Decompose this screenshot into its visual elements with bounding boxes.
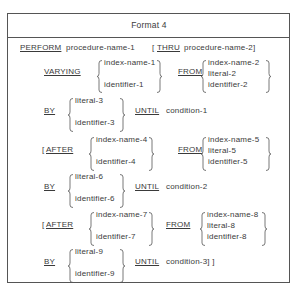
right-brace (149, 212, 154, 246)
format-title: Format 4 (0, 20, 298, 30)
choice-item: literal-9 (75, 247, 103, 257)
choice-item: identifier-6 (75, 194, 115, 204)
choice-item: identifier-7 (96, 232, 136, 242)
choice-item: identifier-1 (104, 80, 144, 90)
from-keyword: FROM (166, 220, 190, 230)
optional-open-bracket: [ (42, 220, 44, 230)
left-brace (89, 137, 94, 171)
choice-item: index-name-7 (96, 210, 147, 220)
left-brace (68, 249, 73, 283)
optional-open-bracket: [ (42, 145, 44, 155)
choice-item: identifier-8 (207, 232, 247, 242)
left-brace (68, 174, 73, 208)
choice-item: identifier-2 (208, 80, 248, 90)
choice-item: index-name-8 (207, 210, 258, 220)
right-brace (266, 60, 271, 93)
thru-keyword: THRU (157, 43, 180, 53)
right-brace (120, 249, 125, 283)
choice-item: identifier-3 (75, 118, 115, 128)
by-keyword: BY (44, 106, 55, 116)
varying-keyword: VARYING (44, 67, 81, 77)
choice-item: index-name-2 (208, 58, 259, 68)
choice-item: identifier-9 (75, 269, 115, 279)
choice-item: identifier-5 (208, 157, 248, 167)
right-brace (120, 174, 125, 208)
choice-item: index-name-5 (208, 135, 259, 145)
choice-item: literal-8 (207, 221, 235, 231)
right-brace (149, 137, 154, 171)
from-keyword: FROM (178, 145, 202, 155)
left-brace (201, 137, 206, 171)
by-keyword: BY (44, 257, 55, 267)
right-brace (262, 212, 267, 246)
left-brace (89, 212, 94, 246)
left-brace (68, 98, 73, 132)
left-brace (97, 60, 102, 93)
by-keyword: BY (44, 182, 55, 192)
until-keyword: UNTIL (135, 106, 159, 116)
choice-item: identifier-4 (96, 157, 136, 167)
choice-item: literal-6 (75, 172, 103, 182)
right-brace (120, 98, 125, 132)
after-keyword: AFTER (46, 220, 73, 230)
condition: condition-2 (166, 182, 207, 192)
choice-item: literal-2 (208, 69, 236, 79)
after-keyword: AFTER (46, 145, 73, 155)
choice-item: literal-5 (208, 146, 236, 156)
from-keyword: FROM (178, 67, 202, 77)
header-divider (7, 37, 290, 38)
right-brace (266, 137, 271, 171)
optional-open-bracket: [ (152, 43, 154, 53)
choice-item: literal-3 (75, 96, 103, 106)
perform-keyword: PERFORM (20, 43, 61, 53)
procedure-name-1: procedure-name-1 (66, 43, 135, 53)
right-brace (157, 60, 162, 93)
procedure-name-2: procedure-name-2] (184, 43, 255, 53)
until-keyword: UNTIL (135, 257, 159, 267)
left-brace (200, 212, 205, 246)
condition: condition-3] ] (166, 257, 215, 267)
condition: condition-1 (166, 106, 207, 116)
choice-item: index-name-1 (104, 58, 155, 68)
choice-item: index-name-4 (96, 135, 147, 145)
until-keyword: UNTIL (135, 182, 159, 192)
left-brace (201, 60, 206, 93)
